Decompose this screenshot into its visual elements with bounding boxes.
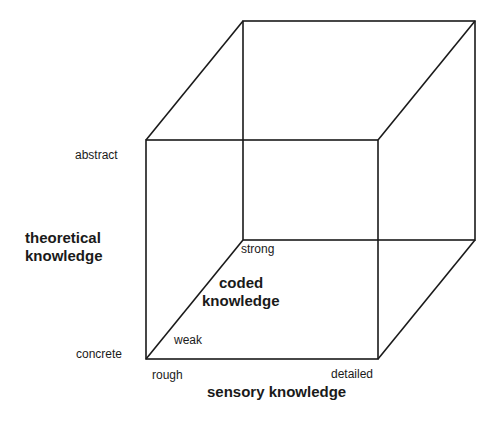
label-detailed: detailed (331, 367, 373, 381)
axis-title-line1: coded (202, 274, 280, 292)
label-concrete: concrete (76, 347, 122, 361)
label-rough: rough (152, 368, 183, 382)
axis-title-line2: knowledge (202, 292, 280, 310)
edge-top-right (378, 21, 475, 140)
axis-title-theoretical: theoretical knowledge (25, 229, 103, 265)
edge-top-left (146, 21, 243, 140)
axis-title-line1: theoretical (25, 229, 103, 247)
axis-title-coded: coded knowledge (202, 274, 280, 310)
edge-bottom-right (378, 240, 475, 359)
label-strong: strong (241, 242, 274, 256)
label-weak: weak (174, 333, 202, 347)
axis-title-line2: knowledge (25, 247, 103, 265)
axis-title-sensory: sensory knowledge (207, 383, 346, 401)
label-abstract: abstract (75, 148, 118, 162)
cube-back-face (243, 21, 475, 240)
